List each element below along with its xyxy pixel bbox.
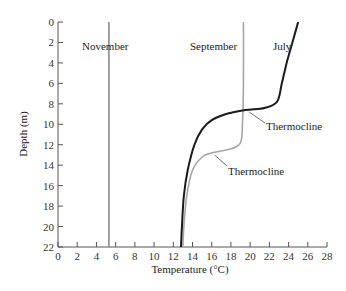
y-tick-label: 22 [43, 241, 54, 253]
x-tick-label: 12 [168, 250, 179, 262]
x-tick-label: 6 [113, 250, 119, 262]
x-tick-label: 24 [283, 250, 295, 262]
y-tick-label: 12 [43, 139, 54, 151]
temperature-depth-chart: 0246810121416182022024681012141618202224… [0, 0, 346, 291]
thermocline-july-leader [249, 112, 265, 123]
x-tick-label: 0 [55, 250, 61, 262]
y-tick-label: 2 [49, 36, 55, 48]
x-tick-label: 14 [187, 250, 199, 262]
x-tick-label: 4 [94, 250, 100, 262]
x-axis-label: Temperature (°C) [151, 263, 229, 276]
y-tick-label: 18 [43, 200, 55, 212]
september-line [183, 22, 244, 247]
november-label: November [82, 40, 129, 52]
x-tick-label: 22 [264, 250, 275, 262]
y-tick-label: 10 [43, 118, 55, 130]
y-tick-label: 6 [49, 77, 55, 89]
x-tick-label: 8 [132, 250, 138, 262]
thermocline-september-leader [215, 155, 227, 166]
x-tick-label: 10 [149, 250, 161, 262]
y-tick-label: 0 [49, 16, 55, 28]
y-tick-label: 16 [43, 180, 55, 192]
y-tick-label: 8 [49, 98, 55, 110]
y-tick-label: 20 [43, 221, 55, 233]
x-tick-label: 2 [74, 250, 80, 262]
series-lines [109, 22, 298, 247]
x-tick-label: 28 [322, 250, 334, 262]
x-tick-label: 18 [225, 250, 237, 262]
y-tick-label: 14 [43, 159, 55, 171]
y-axis-label: Depth (m) [17, 111, 30, 157]
september-label: September [190, 40, 237, 52]
x-tick-label: 20 [245, 250, 257, 262]
x-tick-label: 26 [302, 250, 314, 262]
x-tick-label: 16 [206, 250, 218, 262]
thermocline-september-label: Thermocline [228, 165, 284, 177]
thermocline-july-label: Thermocline [266, 120, 322, 132]
july-line [181, 22, 298, 247]
y-tick-label: 4 [49, 57, 55, 69]
july-label: July [273, 40, 292, 52]
